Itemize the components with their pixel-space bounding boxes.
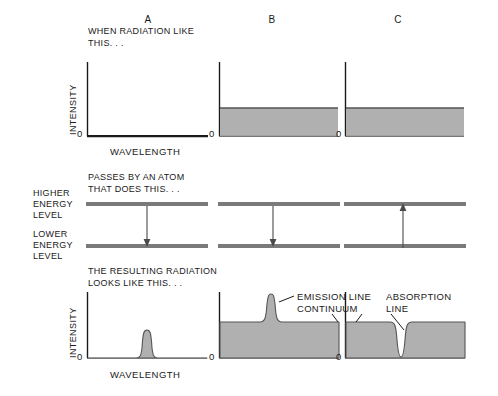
radiation-spectra-diagram: A B C WHEN RADIATION LIKE THIS. . . INTE… — [0, 0, 498, 396]
leader-line-continuum-b — [332, 314, 338, 322]
leader-line-continuum-c — [356, 314, 362, 322]
leader-line-emission — [279, 296, 294, 302]
annotation-leader-lines — [0, 0, 498, 396]
leader-line-absorption — [391, 314, 404, 330]
